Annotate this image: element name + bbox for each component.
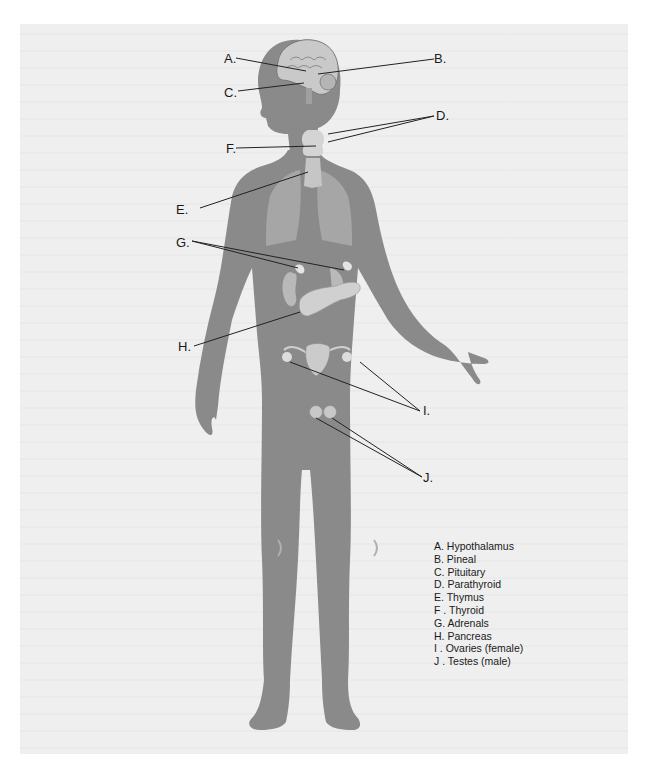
- legend-item: D. Parathyroid: [434, 578, 523, 591]
- label-d: D.: [436, 109, 449, 122]
- label-g: G.: [176, 236, 190, 249]
- legend-item: E. Thymus: [434, 591, 523, 604]
- label-f: F.: [226, 142, 236, 155]
- legend-item: C. Pituitary: [434, 566, 523, 579]
- label-b: B.: [434, 52, 446, 65]
- label-e: E.: [176, 203, 188, 216]
- label-a: A.: [224, 52, 236, 65]
- legend-item: G. Adrenals: [434, 617, 523, 630]
- knee-highlight: [374, 540, 377, 556]
- legend-item: H. Pancreas: [434, 630, 523, 643]
- label-i: I.: [423, 404, 430, 417]
- legend-item: B. Pineal: [434, 553, 523, 566]
- legend-item: J . Testes (male): [434, 655, 523, 668]
- legend: A. Hypothalamus B. Pineal C. Pituitary D…: [434, 540, 523, 668]
- label-h: H.: [178, 340, 191, 353]
- legend-item: A. Hypothalamus: [434, 540, 523, 553]
- label-c: C.: [224, 86, 237, 99]
- legend-item: I . Ovaries (female): [434, 642, 523, 655]
- human-body-figure: [0, 0, 645, 775]
- label-j: J.: [423, 471, 433, 484]
- legend-item: F . Thyroid: [434, 604, 523, 617]
